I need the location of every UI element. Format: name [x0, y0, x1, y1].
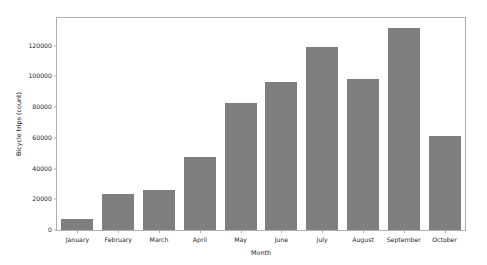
x-tick-mark — [445, 230, 446, 233]
x-tick-mark — [363, 230, 364, 233]
bar — [347, 79, 379, 230]
y-tick-mark — [54, 107, 57, 108]
y-tick-mark — [54, 45, 57, 46]
bar — [429, 136, 461, 230]
x-tick-mark — [281, 230, 282, 233]
bar — [143, 190, 175, 230]
bar — [225, 103, 257, 230]
x-tick-label: May — [234, 235, 247, 244]
x-tick-mark — [241, 230, 242, 233]
x-tick-label: October — [432, 235, 457, 244]
y-tick-label: 120000 — [28, 40, 52, 49]
x-tick-label: January — [66, 235, 89, 244]
y-tick-label: 0 — [48, 225, 52, 234]
y-tick-label: 40000 — [32, 163, 52, 172]
bar — [184, 157, 216, 230]
x-tick-label: September — [387, 235, 421, 244]
y-tick-label: 20000 — [32, 194, 52, 203]
x-tick-mark — [200, 230, 201, 233]
x-tick-mark — [118, 230, 119, 233]
bar — [306, 47, 338, 230]
x-tick-label: March — [150, 235, 169, 244]
x-tick-mark — [404, 230, 405, 233]
x-tick-mark — [322, 230, 323, 233]
y-tick-mark — [54, 137, 57, 138]
x-tick-label: February — [104, 235, 131, 244]
bicycle-trips-bar-chart: 020000400006000080000100000120000 Januar… — [0, 0, 487, 265]
x-tick-label: July — [317, 235, 328, 244]
y-axis-title: Bicycle trips (count) — [14, 17, 24, 231]
y-tick-label: 100000 — [28, 71, 52, 80]
x-tick-label: April — [193, 235, 207, 244]
x-tick-label: August — [352, 235, 374, 244]
bar — [61, 219, 93, 230]
y-tick-mark — [54, 230, 57, 231]
bar — [265, 82, 297, 230]
y-tick-label: 60000 — [32, 132, 52, 141]
bar — [388, 28, 420, 230]
x-tick-label: June — [275, 235, 288, 244]
y-tick-label: 80000 — [32, 102, 52, 111]
y-tick-mark — [54, 76, 57, 77]
bar — [102, 194, 134, 230]
plot-area: 020000400006000080000100000120000 Januar… — [56, 17, 466, 231]
y-tick-mark — [54, 199, 57, 200]
x-axis-title: Month — [56, 249, 466, 258]
y-tick-mark — [54, 168, 57, 169]
x-tick-mark — [159, 230, 160, 233]
x-tick-mark — [77, 230, 78, 233]
